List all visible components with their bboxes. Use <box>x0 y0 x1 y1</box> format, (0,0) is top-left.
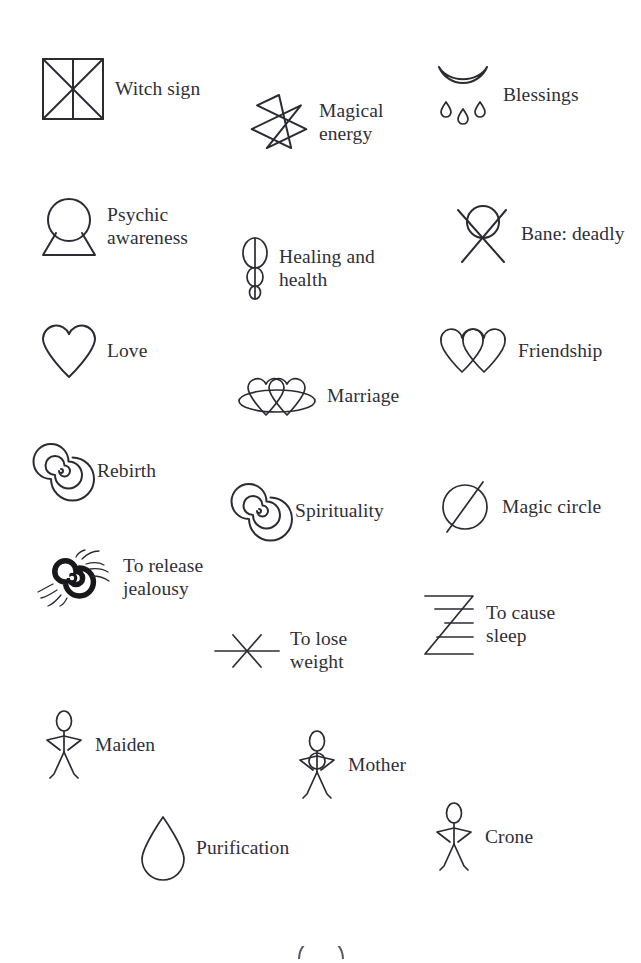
symbol-label-bane-deadly: Bane: deadly <box>521 223 625 246</box>
stick-figure-hands-on-hips-icon <box>42 710 86 780</box>
symbol-entry-mother: Mother <box>295 730 406 800</box>
three-stacked-ovals-icon <box>240 236 270 302</box>
water-drop-icon <box>139 814 187 882</box>
spiral-icon <box>34 444 88 498</box>
crescent-moon-with-drops-icon <box>432 62 494 128</box>
symbol-label-witch-sign: Witch sign <box>115 78 200 101</box>
symbol-entry-love: Love <box>40 322 147 380</box>
symbol-entry-crone: Crone <box>432 802 533 872</box>
heart-icon <box>40 322 98 380</box>
symbol-entry-friendship: Friendship <box>437 328 602 374</box>
symbol-label-psychic-awareness: Psychic awareness <box>107 204 188 249</box>
symbol-label-love: Love <box>107 340 147 363</box>
circle-with-x-icon <box>452 202 512 266</box>
two-overlapping-hearts-icon <box>437 328 509 374</box>
symbol-entry-psychic-awareness: Psychic awareness <box>40 196 188 258</box>
stick-figure-hands-on-hips-icon <box>432 802 476 872</box>
symbol-entry-to-lose-weight: To lose weight <box>213 628 347 673</box>
symbol-label-purification: Purification <box>196 837 289 860</box>
line-with-x-icon <box>213 631 281 671</box>
symbol-label-maiden: Maiden <box>95 734 155 757</box>
circle-with-slash-icon <box>437 478 493 536</box>
symbol-label-to-lose-weight: To lose weight <box>290 628 347 673</box>
symbol-entry-rebirth: Rebirth <box>34 444 156 498</box>
symbol-entry-to-cause-sleep: To cause sleep <box>421 592 555 658</box>
symbol-entry-spirituality: Spirituality <box>232 484 384 538</box>
symbol-label-marriage: Marriage <box>327 385 399 408</box>
stick-figure-hands-on-hips-icon <box>295 730 339 800</box>
symbol-label-magic-circle: Magic circle <box>502 496 601 519</box>
symbol-entry-maiden: Maiden <box>42 710 155 780</box>
symbol-entry-magic-circle: Magic circle <box>437 478 601 536</box>
dense-spiral-with-rays-icon <box>38 550 114 606</box>
symbol-label-healing-and-health: Healing and health <box>279 246 375 291</box>
symbol-entry-healing-and-health: Healing and health <box>240 236 375 302</box>
symbol-label-friendship: Friendship <box>518 340 602 363</box>
spiral-icon <box>232 484 286 538</box>
symbol-entry-bane-deadly: Bane: deadly <box>452 202 625 266</box>
symbol-label-blessings: Blessings <box>503 84 579 107</box>
symbol-label-mother: Mother <box>348 754 406 777</box>
symbol-label-spirituality: Spirituality <box>295 500 384 523</box>
square-with-cross-and-diagonals-icon <box>40 56 106 122</box>
symbol-entry-purification: Purification <box>139 814 289 882</box>
symbol-label-to-release-jealousy: To release jealousy <box>123 555 203 600</box>
symbol-label-crone: Crone <box>485 826 533 849</box>
symbol-entry-to-release-jealousy: To release jealousy <box>38 550 203 606</box>
symbol-entry-marriage: Marriage <box>236 374 399 418</box>
symbol-entry-witch-sign: Witch sign <box>40 56 200 122</box>
circle-on-trapezoid-icon <box>40 196 98 258</box>
z-with-lines-icon <box>421 592 477 658</box>
two-hearts-in-ellipse-icon <box>236 374 318 418</box>
symbol-label-rebirth: Rebirth <box>97 460 156 483</box>
symbol-entry-magical-energy: Magical energy <box>248 92 384 154</box>
seven-pointed-star-icon <box>248 92 310 154</box>
symbol-label-magical-energy: Magical energy <box>319 100 384 145</box>
partial-arc-icon <box>296 946 346 963</box>
symbol-entry-blessings: Blessings <box>432 62 579 128</box>
symbol-label-to-cause-sleep: To cause sleep <box>486 602 555 647</box>
